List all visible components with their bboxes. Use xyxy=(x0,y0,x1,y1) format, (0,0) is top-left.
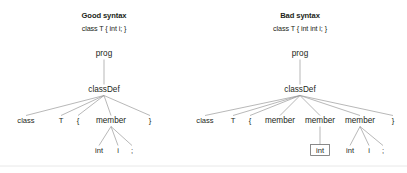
tree-edge-good-classDef-to-type-id xyxy=(61,96,104,116)
tree-edge-bad-member-3-to-int-kw xyxy=(350,127,360,146)
tree-edge-bad-classDef-to-lbrace xyxy=(250,96,300,116)
tree-edge-bad-member-3-to-semi xyxy=(360,127,383,146)
tree-node-bad-type-id: T xyxy=(231,116,236,125)
panel-title-bad: Bad syntax xyxy=(280,11,320,20)
tree-edge-good-classDef-to-member xyxy=(104,96,111,116)
tree-node-bad-class-kw: class xyxy=(196,116,214,125)
tree-node-good-type-id: T xyxy=(59,116,64,125)
tree-node-bad-var-id: i xyxy=(368,146,370,155)
tree-edge-good-classDef-to-class-kw xyxy=(26,96,104,116)
tree-node-good-semi: ; xyxy=(131,146,133,155)
tree-labels-layer: progclassDefclassT{member}inti;progclass… xyxy=(17,49,394,155)
panel-title-good: Good syntax xyxy=(82,11,128,20)
tree-node-bad-member-2: member xyxy=(305,116,335,125)
tree-edge-bad-classDef-to-member-3 xyxy=(300,96,360,116)
tree-node-bad-lbrace: { xyxy=(249,116,252,125)
tree-edge-bad-member-3-to-var-id xyxy=(360,127,369,146)
tree-node-good-rbrace: } xyxy=(149,116,152,125)
tree-edges-layer xyxy=(26,60,393,146)
parse-tree-figure: progclassDefclassT{member}inti;progclass… xyxy=(0,0,407,173)
tree-node-good-var-id: i xyxy=(117,146,119,155)
tree-node-good-lbrace: { xyxy=(77,116,80,125)
tree-node-bad-semi: ; xyxy=(382,146,384,155)
tree-edge-bad-classDef-to-rbrace xyxy=(300,96,393,116)
panel-subtitle-good: class T { int i; } xyxy=(82,24,127,33)
parse-tree-canvas: progclassDefclassT{member}inti;progclass… xyxy=(0,0,407,173)
tree-edge-good-classDef-to-rbrace xyxy=(104,96,150,116)
tree-node-good-prog: prog xyxy=(96,49,113,58)
tree-node-good-classDef: classDef xyxy=(88,85,120,94)
tree-node-good-int-kw: int xyxy=(95,146,104,155)
panel-titles-layer: Good syntaxclass T { int i; }Bad syntaxc… xyxy=(82,11,328,33)
tree-node-good-member: member xyxy=(96,116,126,125)
tree-node-bad-int-error: int xyxy=(316,146,325,155)
panel-subtitle-bad: class T { int int i; } xyxy=(273,24,328,33)
tree-node-bad-member-3: member xyxy=(345,116,375,125)
tree-edge-bad-classDef-to-class-kw xyxy=(205,96,300,116)
tree-node-bad-int-kw: int xyxy=(346,146,355,155)
tree-node-good-class-kw: class xyxy=(17,116,35,125)
tree-edge-good-member-to-int-kw xyxy=(99,127,111,146)
tree-node-bad-prog: prog xyxy=(292,49,309,58)
tree-node-bad-member-1: member xyxy=(265,116,295,125)
tree-node-bad-rbrace: } xyxy=(392,116,395,125)
tree-node-bad-classDef: classDef xyxy=(284,85,316,94)
